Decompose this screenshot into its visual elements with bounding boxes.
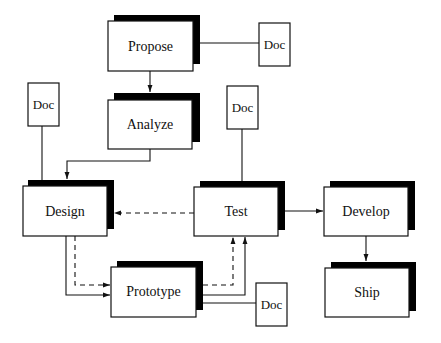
node-analyze[interactable]: Analyze	[108, 93, 200, 149]
node-ship[interactable]: Ship	[325, 262, 416, 317]
edges	[42, 43, 366, 303]
doc-label: Doc	[33, 97, 55, 112]
node-label-prototype: Prototype	[126, 284, 180, 299]
node-label-propose: Propose	[128, 39, 173, 54]
doc-label: Doc	[261, 297, 283, 312]
flowchart-canvas: Propose Analyze Design Test Develop Ship…	[0, 0, 441, 343]
node-label-ship: Ship	[354, 285, 380, 300]
edge-design-prototype-dashed	[75, 236, 110, 285]
edge-prototype-test-dashed	[203, 237, 233, 285]
node-prototype[interactable]: Prototype	[111, 261, 203, 317]
doc-label: Doc	[264, 37, 286, 52]
doc-test[interactable]: Doc	[227, 86, 258, 129]
doc-prototype[interactable]: Doc	[256, 283, 287, 326]
doc-label: Doc	[232, 100, 254, 115]
edge-prototype-test-solid	[203, 237, 245, 295]
doc-design[interactable]: Doc	[28, 83, 59, 126]
node-develop[interactable]: Develop	[324, 181, 415, 236]
node-design[interactable]: Design	[23, 180, 114, 236]
node-test[interactable]: Test	[194, 181, 285, 236]
doc-propose[interactable]: Doc	[259, 23, 290, 66]
node-label-design: Design	[45, 204, 85, 219]
edge-analyze-design	[67, 149, 150, 179]
node-label-develop: Develop	[342, 204, 389, 219]
node-label-analyze: Analyze	[127, 117, 174, 132]
node-label-test: Test	[224, 204, 247, 219]
edge-design-prototype-solid	[66, 236, 110, 295]
node-propose[interactable]: Propose	[108, 15, 200, 71]
